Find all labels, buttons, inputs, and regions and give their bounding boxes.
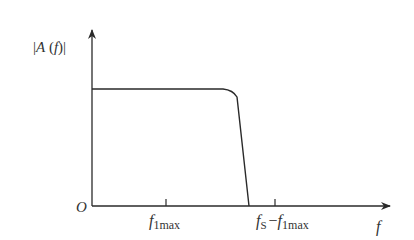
tick-label-fs-minus-f1max: fS−f1max bbox=[256, 212, 309, 232]
tick-label-f1max: f1max bbox=[149, 212, 180, 232]
amplitude-spectrum-diagram: |A (f)| O f f1max fS−f1max bbox=[0, 0, 414, 240]
y-axis-label: |A (f)| bbox=[33, 39, 66, 56]
origin-label: O bbox=[76, 199, 87, 215]
response-curve bbox=[92, 89, 249, 206]
x-axis-label: f bbox=[376, 218, 383, 236]
